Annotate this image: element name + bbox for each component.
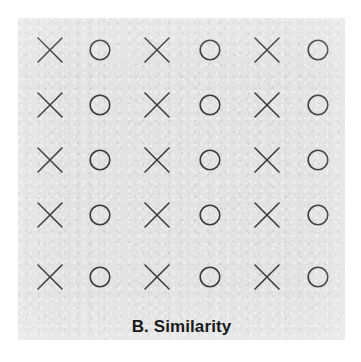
symbol-grid — [18, 18, 345, 340]
circle-glyph — [195, 200, 225, 230]
cross-glyph — [142, 90, 172, 120]
circle-glyph — [303, 90, 333, 120]
circle-glyph — [303, 262, 333, 292]
cross-glyph — [252, 90, 282, 120]
circle-glyph — [85, 262, 115, 292]
circle-glyph — [303, 35, 333, 65]
circle-glyph — [195, 262, 225, 292]
cross-glyph — [252, 262, 282, 292]
figure-panel: B. Similarity — [18, 18, 345, 340]
circle-glyph — [195, 145, 225, 175]
circle-glyph — [195, 90, 225, 120]
cross-glyph — [142, 35, 172, 65]
cross-glyph — [35, 145, 65, 175]
cross-glyph — [252, 35, 282, 65]
circle-glyph — [303, 200, 333, 230]
gestalt-similarity-figure: B. Similarity — [0, 0, 361, 362]
cross-glyph — [35, 35, 65, 65]
cross-glyph — [142, 262, 172, 292]
cross-glyph — [142, 200, 172, 230]
cross-glyph — [35, 90, 65, 120]
cross-glyph — [35, 200, 65, 230]
circle-glyph — [85, 35, 115, 65]
panel-caption: B. Similarity — [18, 316, 345, 338]
circle-glyph — [195, 35, 225, 65]
circle-glyph — [85, 90, 115, 120]
cross-glyph — [142, 145, 172, 175]
circle-glyph — [85, 200, 115, 230]
cross-glyph — [35, 262, 65, 292]
cross-glyph — [252, 200, 282, 230]
circle-glyph — [303, 145, 333, 175]
circle-glyph — [85, 145, 115, 175]
cross-glyph — [252, 145, 282, 175]
